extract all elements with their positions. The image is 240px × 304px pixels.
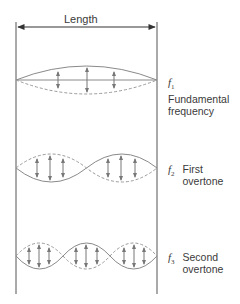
mode-f3-line1: Second — [182, 251, 218, 263]
mode-f2-symbol: f2 — [168, 163, 175, 175]
mode-f1-line2: frequency — [168, 105, 214, 117]
length-label: Length — [64, 13, 98, 25]
mode-f2-label: f2 Firstovertone — [168, 163, 223, 187]
mode-f3-symbol: f3 — [168, 251, 175, 263]
mode-f1-wave — [16, 66, 157, 94]
mode-f2-line1: First — [182, 163, 202, 175]
mode-f1-line1: Fundamental — [168, 93, 229, 105]
mode-f3-wave — [16, 243, 157, 269]
mode-f3-label: f3 Secondovertone — [168, 251, 223, 275]
mode-f2-wave — [16, 154, 157, 182]
mode-f1-symbol: f1 — [168, 76, 175, 88]
mode-f3-line2: overtone — [182, 263, 223, 275]
mode-f1-label: f1 Fundamentalfrequency — [168, 76, 240, 117]
mode-f2-line2: overtone — [182, 175, 223, 187]
